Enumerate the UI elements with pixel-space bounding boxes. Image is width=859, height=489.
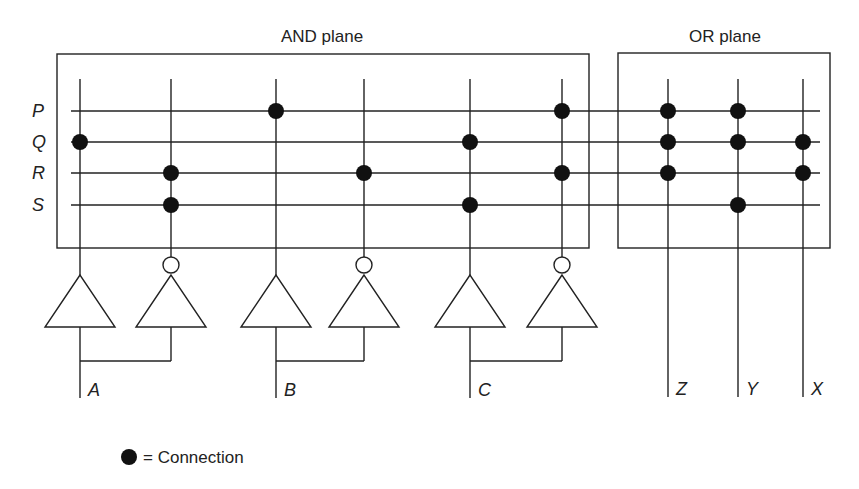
connection-dot-icon <box>554 103 570 119</box>
inverter-bubble-icon <box>163 257 179 273</box>
connection-dot-icon <box>730 134 746 150</box>
output-label-z: Z <box>675 379 688 399</box>
connection-dot-icon <box>660 134 676 150</box>
connection-dot-icon <box>554 165 570 181</box>
connection-dot-icon <box>72 134 88 150</box>
buffer-triangle-icon <box>45 275 115 327</box>
input-label-b: B <box>284 380 296 400</box>
connection-dot-icon <box>730 197 746 213</box>
input-label-c: C <box>478 380 492 400</box>
output-label-x: X <box>810 379 824 399</box>
connection-dot-icon <box>356 165 372 181</box>
row-label-q: Q <box>32 132 46 152</box>
connection-dot-icon <box>660 165 676 181</box>
buffer-triangle-icon <box>435 275 505 327</box>
inverter-triangle-icon <box>329 275 399 327</box>
or-plane-box <box>618 53 830 248</box>
or-plane-label: OR plane <box>689 27 761 46</box>
connection-dot-icon <box>268 103 284 119</box>
connection-dot-icon <box>660 103 676 119</box>
output-label-y: Y <box>746 379 760 399</box>
and-plane-label: AND plane <box>281 27 363 46</box>
row-label-r: R <box>32 163 45 183</box>
pla-diagram: AND plane OR plane PQRSZYXABC = Connecti… <box>0 0 859 489</box>
inverter-triangle-icon <box>136 275 206 327</box>
inverter-bubble-icon <box>554 257 570 273</box>
connection-dot-icon <box>163 197 179 213</box>
legend-text: = Connection <box>143 448 244 467</box>
connection-dot-icon <box>730 103 746 119</box>
buffer-triangle-icon <box>241 275 311 327</box>
inverter-bubble-icon <box>356 257 372 273</box>
row-label-s: S <box>32 195 44 215</box>
and-plane-box <box>57 54 589 248</box>
connection-dot-icon <box>462 197 478 213</box>
row-label-p: P <box>32 101 44 121</box>
connection-dot-icon <box>462 134 478 150</box>
connection-dot-icon <box>163 165 179 181</box>
connection-dot-icon <box>795 165 811 181</box>
inverter-triangle-icon <box>527 275 597 327</box>
legend-dot-icon <box>121 449 137 465</box>
connection-dot-icon <box>795 134 811 150</box>
input-label-a: A <box>87 380 100 400</box>
